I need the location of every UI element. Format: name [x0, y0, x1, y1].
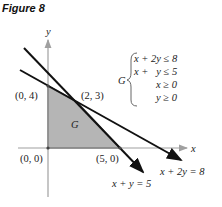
constraint-1: x + 2y ≤ 8 — [133, 53, 178, 64]
line-label-x-plus-2y-eq-8: x + 2y = 8 — [159, 166, 205, 177]
constraint-4: y ≥ 0 — [155, 92, 178, 103]
vertex-label-0-0: (0, 0) — [20, 153, 43, 165]
vertex-label-2-3: (2, 3) — [81, 90, 104, 102]
system-name: G — [118, 75, 126, 86]
constraint-3: x ≥ 0 — [155, 79, 178, 90]
constraint-2: x + y ≤ 5 — [133, 66, 177, 77]
feasible-region-diagram: x y G (0, 0) (0, 4) (2, 3) (5, 0) x + y … — [0, 0, 222, 207]
line-label-x-plus-y-eq-5: x + y = 5 — [111, 178, 151, 189]
vertex-dot — [46, 84, 49, 87]
vertex-dot — [118, 146, 121, 149]
vertex-label-0-4: (0, 4) — [15, 90, 38, 102]
y-axis-label: y — [45, 26, 51, 37]
x-axis-label: x — [190, 143, 196, 154]
vertex-label-5-0: (5, 0) — [96, 153, 119, 165]
vertex-dot — [46, 146, 49, 149]
region-label: G — [71, 119, 79, 130]
